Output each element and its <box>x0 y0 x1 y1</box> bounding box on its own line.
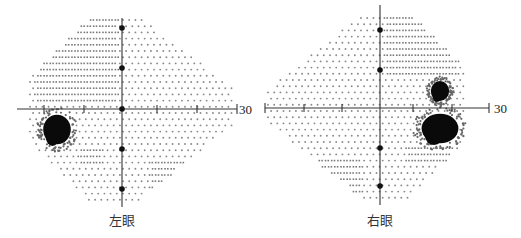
scotoma-region <box>413 106 467 151</box>
right-axis-end-label: 30 <box>494 102 507 115</box>
right-eye-field-plot <box>0 0 521 238</box>
right-eye-visual-field: 30 右眼 <box>0 0 521 238</box>
right-eye-label: 右眼 <box>367 214 393 228</box>
axis-marker-dot <box>377 67 383 73</box>
axis-marker-dot <box>377 27 383 33</box>
axis-marker-dot <box>377 145 383 151</box>
axis-marker-dot <box>377 183 383 189</box>
